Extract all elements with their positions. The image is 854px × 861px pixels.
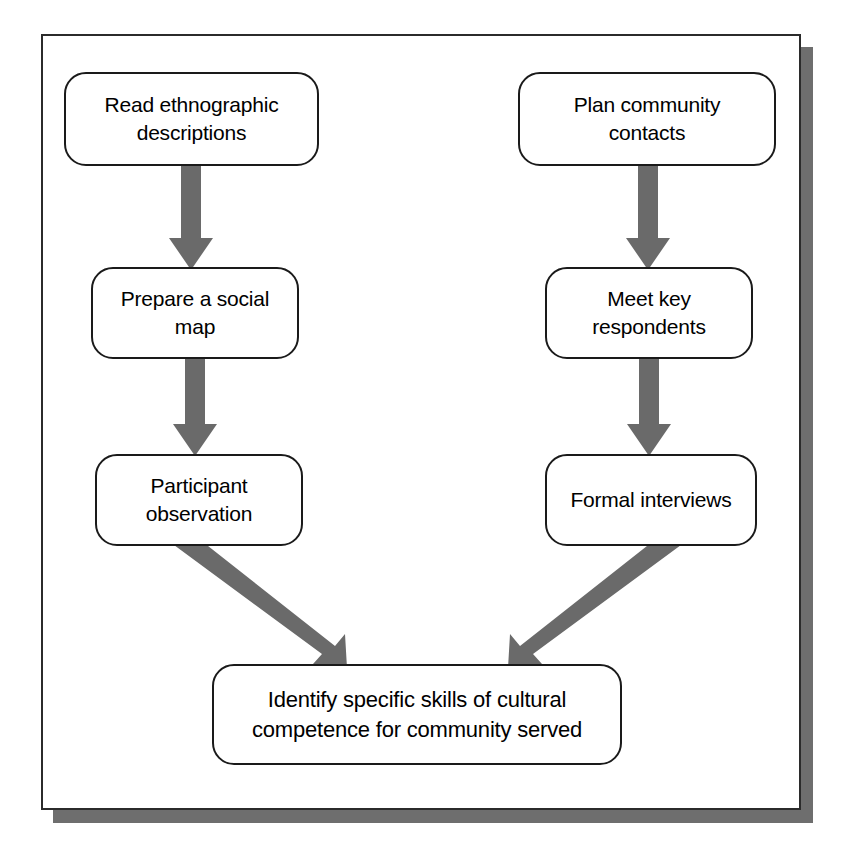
node-formal-label: Formal interviews [558,486,743,514]
arrow-plan-to-meet [626,165,670,270]
node-participant-label: Participant observation [134,472,264,527]
node-meet-key-respondents[interactable]: Meet key respondents [545,267,753,359]
node-identify-specific-skills[interactable]: Identify specific skills of cultural com… [212,664,622,765]
node-participant-observation[interactable]: Participant observation [95,454,303,546]
node-map-label: Prepare a social map [109,285,282,340]
arrow-meet-to-formal [627,358,671,456]
node-plan-community-contacts[interactable]: Plan community contacts [518,72,776,166]
node-formal-interviews[interactable]: Formal interviews [545,454,757,546]
node-read-ethnographic-descriptions[interactable]: Read ethnographic descriptions [64,72,319,166]
arrow-participant-to-identify [174,531,347,668]
node-plan-label: Plan community contacts [562,91,733,146]
diagram-page: Read ethnographic descriptions Plan comm… [0,0,854,861]
node-read-label: Read ethnographic descriptions [92,91,290,146]
node-meet-label: Meet key respondents [580,285,717,340]
node-identify-label: Identify specific skills of cultural com… [240,685,594,743]
arrow-formal-to-identify [508,531,681,668]
arrow-map-to-participant [173,358,217,456]
arrow-read-to-map [169,165,213,270]
node-prepare-social-map[interactable]: Prepare a social map [91,267,299,359]
